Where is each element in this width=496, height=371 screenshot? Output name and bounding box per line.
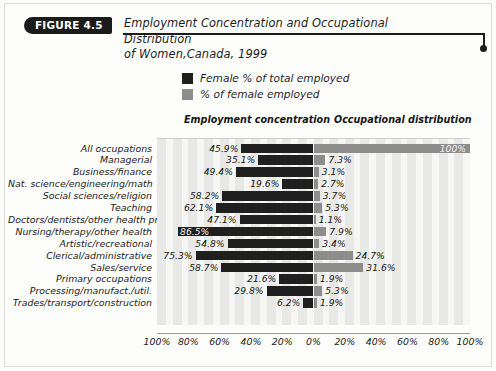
bar-employment-concentration bbox=[228, 239, 313, 249]
x-axis-tick-label: 20% bbox=[334, 336, 355, 347]
category-label: Clerical/administrative bbox=[8, 250, 152, 262]
bar-occupational-distribution bbox=[314, 215, 316, 225]
category-label: Doctors/dentists/other health prof. bbox=[8, 214, 152, 226]
legend-label-distribution: % of female employed bbox=[200, 88, 319, 100]
chart-row: 54.8%3.4% bbox=[157, 238, 470, 250]
value-label-occupational-distribution: 1.9% bbox=[320, 273, 343, 284]
x-axis-tick-labels: 100%80%60%40%20%0%20%40%60%80%100% bbox=[157, 336, 470, 350]
x-axis-tick-label: 0% bbox=[306, 336, 321, 347]
figure-page: FIGURE 4.5 Employment Concentration and … bbox=[0, 0, 496, 371]
chart-row: 49.4%3.1% bbox=[157, 166, 470, 178]
bar-occupational-distribution bbox=[314, 286, 322, 296]
category-label: Social sciences/religion bbox=[8, 190, 152, 202]
bar-employment-concentration bbox=[240, 215, 313, 225]
x-axis-tick-label: 100% bbox=[144, 336, 171, 347]
value-label-occupational-distribution: 1.9% bbox=[320, 297, 343, 308]
bar-occupational-distribution bbox=[314, 191, 320, 201]
bar-employment-concentration bbox=[267, 286, 313, 296]
category-label: Sales/service bbox=[8, 262, 152, 274]
chart-legend: Female % of total employed % of female e… bbox=[182, 71, 349, 103]
legend-label-concentration: Female % of total employed bbox=[200, 72, 349, 84]
legend-swatch-distribution bbox=[182, 89, 193, 100]
chart-row: 62.1%5.3% bbox=[157, 202, 470, 214]
legend-item-concentration: Female % of total employed bbox=[182, 71, 349, 85]
category-label: Processing/manufact./util. bbox=[8, 285, 152, 297]
legend-item-distribution: % of female employed bbox=[182, 87, 349, 101]
x-axis-tick-label: 60% bbox=[209, 336, 230, 347]
figure-title: Employment Concentration and Occupationa… bbox=[124, 16, 454, 63]
x-axis-tick-label: 60% bbox=[397, 336, 418, 347]
bar-occupational-distribution bbox=[314, 155, 325, 165]
value-label-occupational-distribution: 7.9% bbox=[329, 226, 352, 237]
value-label-occupational-distribution: 3.7% bbox=[323, 190, 346, 201]
x-axis-tick-label: 100% bbox=[457, 336, 484, 347]
bar-occupational-distribution bbox=[314, 167, 319, 177]
chart-row: 29.8%5.3% bbox=[157, 285, 470, 297]
category-label: Managerial bbox=[8, 154, 152, 166]
figure-title-line-1: Employment Concentration and Occupationa… bbox=[124, 16, 454, 47]
bar-employment-concentration bbox=[282, 179, 313, 189]
bar-employment-concentration bbox=[196, 251, 313, 261]
value-label-occupational-distribution: 1.1% bbox=[319, 214, 342, 225]
chart-plot-area: 45.9%100%35.1%7.3%49.4%3.1%19.6%2.7%58.2… bbox=[157, 139, 470, 325]
column-header-employment-concentration: Employment concentration bbox=[184, 114, 330, 125]
value-label-employment-concentration: 75.3% bbox=[157, 250, 193, 261]
bar-employment-concentration bbox=[303, 298, 313, 308]
x-axis-tick-label: 20% bbox=[272, 336, 293, 347]
bar-occupational-distribution bbox=[314, 298, 317, 308]
chart-row: 19.6%2.7% bbox=[157, 178, 470, 190]
value-label-employment-concentration: 62.1% bbox=[157, 202, 213, 213]
value-label-occupational-distribution: 31.6% bbox=[366, 262, 395, 273]
bar-occupational-distribution bbox=[314, 179, 318, 189]
x-axis-tick-label: 40% bbox=[366, 336, 387, 347]
value-label-occupational-distribution: 3.1% bbox=[322, 166, 345, 177]
value-label-occupational-distribution: 100% bbox=[314, 143, 466, 154]
chart-row: 58.7%31.6% bbox=[157, 262, 470, 274]
figure-title-line-2: of Women,Canada, 1999 bbox=[124, 47, 454, 63]
category-label: Business/finance bbox=[8, 166, 152, 178]
value-label-employment-concentration: 29.8% bbox=[157, 285, 264, 296]
chart-row: 75.3%24.7% bbox=[157, 250, 470, 262]
bar-occupational-distribution bbox=[314, 239, 319, 249]
bar-occupational-distribution bbox=[314, 263, 363, 273]
legend-swatch-concentration bbox=[182, 73, 193, 84]
category-label: Nursing/therapy/other health bbox=[8, 226, 152, 238]
value-label-occupational-distribution: 5.3% bbox=[325, 202, 348, 213]
bar-employment-concentration bbox=[258, 155, 313, 165]
bar-occupational-distribution bbox=[314, 203, 322, 213]
chart-row: 6.2%1.9% bbox=[157, 297, 470, 309]
figure-rule-end-dot bbox=[480, 45, 487, 52]
value-label-employment-concentration: 19.6% bbox=[157, 178, 279, 189]
value-label-occupational-distribution: 24.7% bbox=[356, 250, 385, 261]
value-label-employment-concentration: 58.2% bbox=[157, 190, 219, 201]
chart-row: 47.1%1.1% bbox=[157, 214, 470, 226]
bar-employment-concentration bbox=[236, 167, 313, 177]
value-label-employment-concentration: 21.6% bbox=[157, 273, 276, 284]
x-axis-line bbox=[157, 333, 470, 334]
figure-header: FIGURE 4.5 Employment Concentration and … bbox=[24, 17, 474, 59]
bar-employment-concentration bbox=[222, 191, 313, 201]
chart-row: 21.6%1.9% bbox=[157, 273, 470, 285]
category-label: Primary occupations bbox=[8, 273, 152, 285]
chart-row: 86.5%7.9% bbox=[157, 226, 470, 238]
value-label-occupational-distribution: 2.7% bbox=[321, 178, 344, 189]
bar-employment-concentration bbox=[241, 144, 313, 154]
bar-occupational-distribution bbox=[314, 227, 326, 237]
bar-employment-concentration bbox=[279, 274, 313, 284]
column-header-occupational-distribution: Occupational distribution bbox=[334, 114, 472, 125]
category-label: All occupations bbox=[8, 143, 152, 155]
value-label-employment-concentration: 6.2% bbox=[157, 297, 300, 308]
value-label-occupational-distribution: 3.4% bbox=[322, 238, 345, 249]
chart-row: 35.1%7.3% bbox=[157, 154, 470, 166]
value-label-occupational-distribution: 5.3% bbox=[325, 285, 348, 296]
bar-occupational-distribution bbox=[314, 251, 353, 261]
value-label-employment-concentration: 47.1% bbox=[157, 214, 237, 225]
chart-row: 58.2%3.7% bbox=[157, 190, 470, 202]
value-label-employment-concentration: 49.4% bbox=[157, 166, 233, 177]
value-label-employment-concentration: 54.8% bbox=[157, 238, 225, 249]
bar-occupational-distribution bbox=[314, 274, 317, 284]
category-label: Teaching bbox=[8, 202, 152, 214]
x-axis-tick-label: 40% bbox=[240, 336, 261, 347]
bar-employment-concentration bbox=[221, 263, 313, 273]
category-label: Artistic/recreational bbox=[8, 238, 152, 250]
